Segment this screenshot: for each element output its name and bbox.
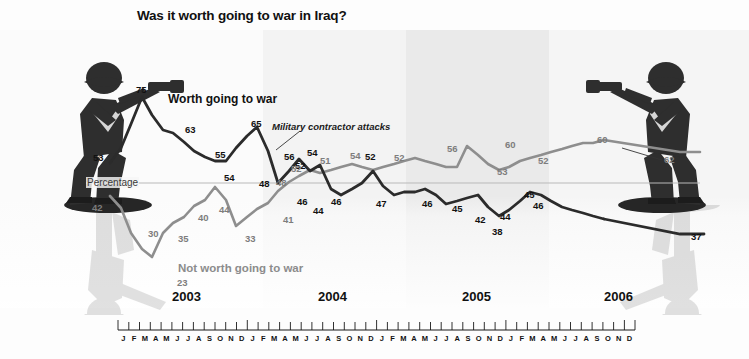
value-label-not-worth: 56 (447, 143, 458, 154)
month-tick-label: M (419, 332, 430, 346)
month-tick-label: J (570, 332, 581, 346)
value-label-worth: 46 (422, 198, 433, 209)
value-label-not-worth: 62 (664, 154, 675, 165)
month-tick-label: J (312, 332, 323, 346)
series-label-worth: Worth going to war (168, 92, 277, 106)
value-label-not-worth: 44 (219, 204, 230, 215)
month-tick-label: O (215, 332, 226, 346)
soldier-right-reflection (620, 198, 720, 328)
month-tick-label: S (463, 332, 474, 346)
series-label-not-worth: Not worth going to war (178, 262, 303, 274)
value-label-worth: 54 (307, 147, 318, 158)
month-tick-label: M (527, 332, 538, 346)
value-label-not-worth: 60 (597, 134, 608, 145)
value-label-not-worth: 54 (350, 150, 361, 161)
value-label-worth: 65 (251, 118, 262, 129)
month-tick-label: J (441, 332, 452, 346)
month-tick-label: A (409, 332, 420, 346)
month-axis: JFMAMJJASONDJFMAMJJASONDJFMAMJJASONDJFMA… (118, 318, 635, 352)
value-label-not-worth: 53 (497, 166, 508, 177)
month-tick-label: A (452, 332, 463, 346)
value-label-not-worth: 51 (320, 155, 331, 166)
value-label-not-worth: 52 (538, 155, 549, 166)
chart-container: Was it worth going to war in Iraq? Worth… (0, 0, 749, 359)
month-tick-label: M (290, 332, 301, 346)
month-tick-label: N (613, 332, 624, 346)
month-tick-label: S (333, 332, 344, 346)
year-label-2005: 2005 (462, 289, 491, 304)
value-label-worth: 47 (376, 198, 387, 209)
value-label-not-worth: 60 (505, 139, 516, 150)
month-tick-label: N (226, 332, 237, 346)
axis-label-percentage: Percentage (86, 177, 139, 188)
value-label-worth: 56 (284, 151, 295, 162)
month-tick-label: O (473, 332, 484, 346)
month-tick-label: M (398, 332, 409, 346)
value-label-worth: 45 (524, 189, 535, 200)
month-tick-label: J (172, 332, 183, 346)
month-tick-label: J (301, 332, 312, 346)
value-label-worth: 45 (452, 203, 463, 214)
month-tick-label: N (484, 332, 495, 346)
month-tick-label: D (236, 332, 247, 346)
value-label-worth: 44 (313, 205, 324, 216)
month-tick-label: J (247, 332, 258, 346)
value-label-worth: 63 (185, 124, 196, 135)
month-tick-label: J (506, 332, 517, 346)
month-tick-label: A (150, 332, 161, 346)
value-label-worth: 42 (475, 214, 486, 225)
month-tick-label: F (516, 332, 527, 346)
month-tick-label: A (279, 332, 290, 346)
value-label-not-worth: 33 (245, 233, 256, 244)
value-label-not-worth: 48 (276, 177, 287, 188)
value-label-worth: 38 (492, 226, 503, 237)
value-label-not-worth: 52 (291, 163, 302, 174)
month-tick-label: N (355, 332, 366, 346)
year-label-2004: 2004 (318, 289, 347, 304)
month-tick-label: D (495, 332, 506, 346)
month-tick-label: J (118, 332, 129, 346)
month-tick-label: J (183, 332, 194, 346)
value-label-worth: 37 (691, 231, 702, 242)
month-tick-label: M (140, 332, 151, 346)
value-label-not-worth: 41 (283, 214, 294, 225)
value-label-worth: 46 (297, 196, 308, 207)
month-tick-label: S (592, 332, 603, 346)
value-label-not-worth: 35 (178, 233, 189, 244)
month-tick-label: D (366, 332, 377, 346)
value-label-worth: 52 (365, 151, 376, 162)
value-label-not-worth: 30 (148, 228, 159, 239)
year-label-2003: 2003 (172, 289, 201, 304)
page-title: Was it worth going to war in Iraq? (137, 8, 346, 23)
month-tick-label: A (581, 332, 592, 346)
value-label-worth: 46 (533, 200, 544, 211)
month-tick-label: F (129, 332, 140, 346)
month-tick-label: M (549, 332, 560, 346)
value-label-worth: 53 (93, 152, 104, 163)
annotation-military-contractor-attacks: Military contractor attacks (272, 121, 390, 132)
month-tick-label: J (376, 332, 387, 346)
value-label-not-worth: 52 (394, 152, 405, 163)
year-label-2006: 2006 (604, 289, 633, 304)
annotation-leader-line (276, 131, 300, 150)
month-tick-label: F (387, 332, 398, 346)
month-tick-label: O (344, 332, 355, 346)
value-label-not-worth: 23 (177, 277, 188, 288)
value-label-worth: 46 (331, 196, 342, 207)
month-tick-label: J (430, 332, 441, 346)
value-label-worth: 54 (224, 172, 235, 183)
month-tick-label: A (538, 332, 549, 346)
month-tick-label: M (161, 332, 172, 346)
month-tick-label: M (269, 332, 280, 346)
month-tick-label: A (323, 332, 334, 346)
month-tick-label: S (204, 332, 215, 346)
month-tick-label: F (258, 332, 269, 346)
value-label-worth: 75 (136, 84, 147, 95)
soldier-left-reflection (66, 198, 166, 328)
month-tick-label: J (559, 332, 570, 346)
value-label-not-worth: 40 (198, 212, 209, 223)
value-label-worth: 44 (500, 211, 511, 222)
month-tick-label: D (624, 332, 635, 346)
month-tick-label: O (602, 332, 613, 346)
value-label-worth: 48 (259, 178, 270, 189)
